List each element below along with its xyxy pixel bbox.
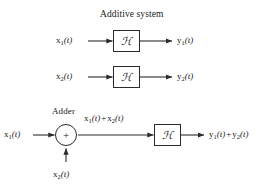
row3-system-block: ℋ xyxy=(154,124,181,146)
plus-icon: + xyxy=(63,129,69,140)
script-h-symbol: ℋ xyxy=(121,71,132,82)
row2-system-block: ℋ xyxy=(113,66,140,88)
row3-input-bottom-label: x2(t) xyxy=(53,170,69,179)
adder-node: + xyxy=(55,124,77,146)
script-h-symbol: ℋ xyxy=(121,35,132,46)
figure-canvas: Additive system x1(t) ℋ y1(t) x2(t) ℋ y2… xyxy=(0,0,266,196)
row2-input-label: x2(t) xyxy=(56,72,72,81)
row2-output-label: y2(t) xyxy=(177,72,193,81)
script-h-symbol: ℋ xyxy=(162,129,173,140)
figure-title: Additive system xyxy=(100,9,164,19)
row1-output-label: y1(t) xyxy=(177,36,193,45)
row3-output-label: y1(t)+y2(t) xyxy=(209,130,249,139)
adder-label: Adder xyxy=(52,106,75,116)
row3-input-top-label: x1(t) xyxy=(4,130,20,139)
row3-sum-label: x1(t)+x2(t) xyxy=(84,114,124,123)
row1-input-label: x1(t) xyxy=(56,36,72,45)
row1-system-block: ℋ xyxy=(113,30,140,52)
